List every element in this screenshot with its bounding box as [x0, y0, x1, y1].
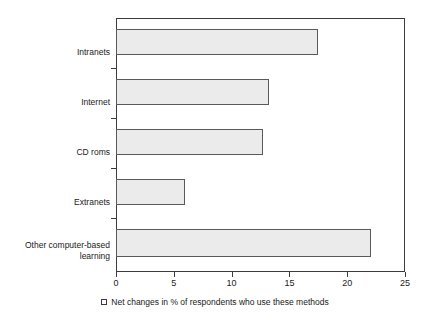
x-axis-tick: [405, 272, 406, 277]
bar-intranets[interactable]: [116, 29, 318, 55]
x-axis-tick: [174, 272, 175, 277]
bar-extranets[interactable]: [116, 179, 185, 205]
bar-internet[interactable]: [116, 79, 269, 105]
legend-swatch-icon: [101, 299, 107, 305]
x-axis-tick-label: 5: [159, 278, 189, 289]
bar-other-computer-based-learning[interactable]: [116, 229, 371, 257]
y-axis-labels: Intranets Internet CD roms Extranets Oth…: [0, 18, 110, 272]
y-axis-label-internet: Internet: [0, 97, 110, 108]
x-axis-tick: [116, 272, 117, 277]
x-axis: 0 5 10 15 20 25: [116, 272, 405, 296]
x-axis-tick-label: 20: [332, 278, 362, 289]
y-axis-label-intranets: Intranets: [0, 47, 110, 58]
x-axis-tick-label: 15: [274, 278, 304, 289]
horizontal-bar-chart: Intranets Internet CD roms Extranets Oth…: [0, 0, 430, 321]
chart-legend: Net changes in % of respondents who use …: [0, 296, 430, 308]
x-axis-tick: [347, 272, 348, 277]
x-axis-tick: [289, 272, 290, 277]
legend-entry-label: Net changes in % of respondents who use …: [111, 296, 328, 308]
x-axis-tick: [232, 272, 233, 277]
bars-layer: [116, 18, 405, 272]
y-axis-label-extranets: Extranets: [0, 197, 110, 208]
y-axis-label-cd-roms: CD roms: [0, 147, 110, 158]
x-axis-tick-label: 10: [217, 278, 247, 289]
bar-cd-roms[interactable]: [116, 129, 263, 155]
x-axis-tick-label: 25: [390, 278, 420, 289]
x-axis-tick-label: 0: [101, 278, 131, 289]
y-axis-label-other-computer-based-learning: Other computer-based learning: [0, 240, 110, 262]
legend-entry[interactable]: Net changes in % of respondents who use …: [101, 296, 328, 308]
